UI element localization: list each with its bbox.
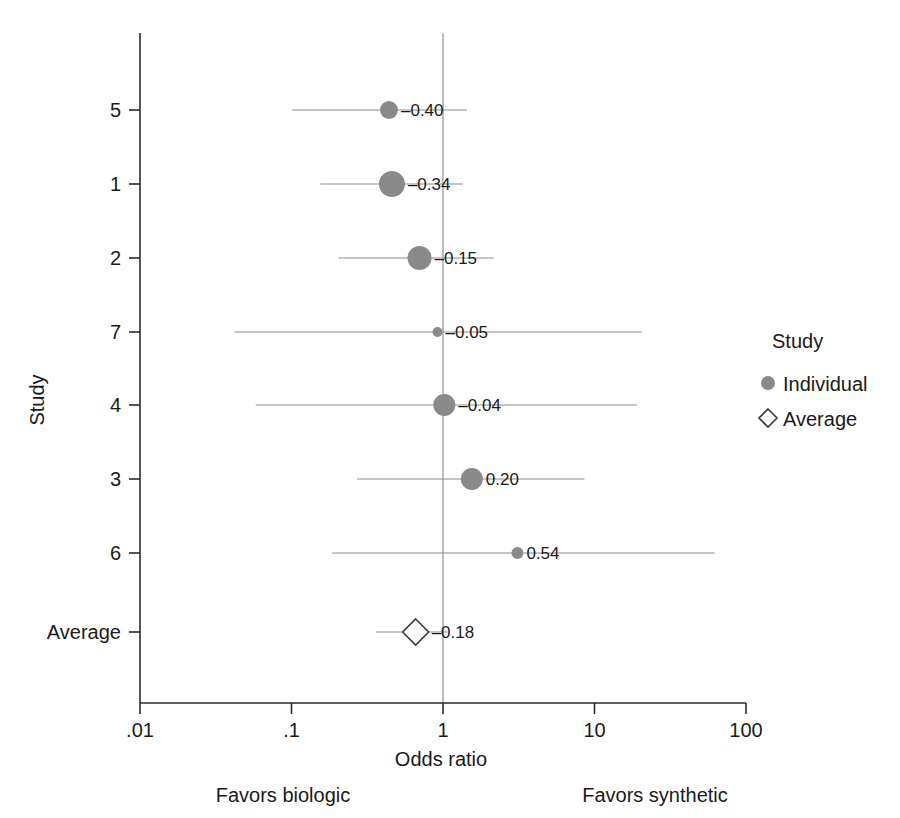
forest-plot-container: 5127436Average .01.1110100 –0.40–0.34–0.… [0, 0, 900, 818]
forest-row-3[interactable]: 0.20 [357, 468, 585, 490]
legend-item-average[interactable]: Average [759, 408, 857, 430]
x-axis-tick-labels: .01.1110100 [126, 719, 763, 741]
x-tick-label: .1 [283, 719, 300, 741]
y-axis-tick-labels: 5127436Average [47, 99, 121, 643]
forest-row-6[interactable]: 0.54 [332, 544, 715, 563]
forest-row-5[interactable]: –0.40 [292, 101, 467, 120]
y-axis-title: Study [26, 374, 48, 425]
y-axis-ticks [129, 110, 140, 632]
x-axis-ticks [140, 703, 746, 714]
x-tick-label: .01 [126, 719, 154, 741]
study-point-marker[interactable] [379, 171, 405, 197]
effect-value-label: 0.54 [526, 544, 559, 563]
x-tick-label: 100 [729, 719, 762, 741]
legend-label-average: Average [783, 408, 857, 430]
annotation-favors-left: Favors biologic [216, 784, 351, 806]
legend-diamond-icon [759, 409, 777, 427]
study-point-marker[interactable] [380, 101, 398, 119]
data-series: –0.40–0.34–0.15–0.05–0.040.200.54–0.18 [234, 101, 714, 645]
effect-value-label: –0.40 [401, 101, 444, 120]
effect-value-label: –0.05 [446, 323, 489, 342]
forest-row-1[interactable]: –0.34 [320, 171, 462, 197]
average-diamond-marker[interactable] [403, 619, 429, 645]
legend: Study Individual Average [759, 330, 868, 430]
study-point-marker[interactable] [433, 394, 455, 416]
legend-title: Study [772, 330, 823, 352]
effect-value-label: –0.18 [432, 623, 475, 642]
y-tick-label-3: 3 [110, 468, 121, 490]
annotation-favors-right: Favors synthetic [582, 784, 728, 806]
legend-item-individual[interactable]: Individual [761, 373, 868, 395]
study-point-marker[interactable] [433, 327, 443, 337]
y-tick-label-4: 4 [110, 394, 121, 416]
x-tick-label: 10 [583, 719, 605, 741]
effect-value-label: –0.04 [458, 396, 501, 415]
study-point-marker[interactable] [511, 547, 523, 559]
legend-circle-icon [761, 376, 775, 390]
y-tick-label-7: 7 [110, 321, 121, 343]
effect-value-label: –0.34 [408, 175, 451, 194]
y-tick-label-Average: Average [47, 621, 121, 643]
y-tick-label-1: 1 [110, 173, 121, 195]
study-point-marker[interactable] [461, 468, 483, 490]
forest-row-Average[interactable]: –0.18 [376, 619, 474, 645]
forest-row-7[interactable]: –0.05 [234, 323, 641, 342]
study-point-marker[interactable] [408, 246, 432, 270]
y-tick-label-6: 6 [110, 542, 121, 564]
forest-row-2[interactable]: –0.15 [339, 246, 494, 270]
y-tick-label-5: 5 [110, 99, 121, 121]
effect-value-label: –0.15 [435, 249, 478, 268]
x-axis-title: Odds ratio [395, 748, 487, 770]
y-tick-label-2: 2 [110, 247, 121, 269]
effect-value-label: 0.20 [486, 470, 519, 489]
legend-label-individual: Individual [783, 373, 868, 395]
forest-row-4[interactable]: –0.04 [256, 394, 637, 416]
x-tick-label: 1 [437, 719, 448, 741]
forest-plot-svg: 5127436Average .01.1110100 –0.40–0.34–0.… [0, 0, 900, 818]
